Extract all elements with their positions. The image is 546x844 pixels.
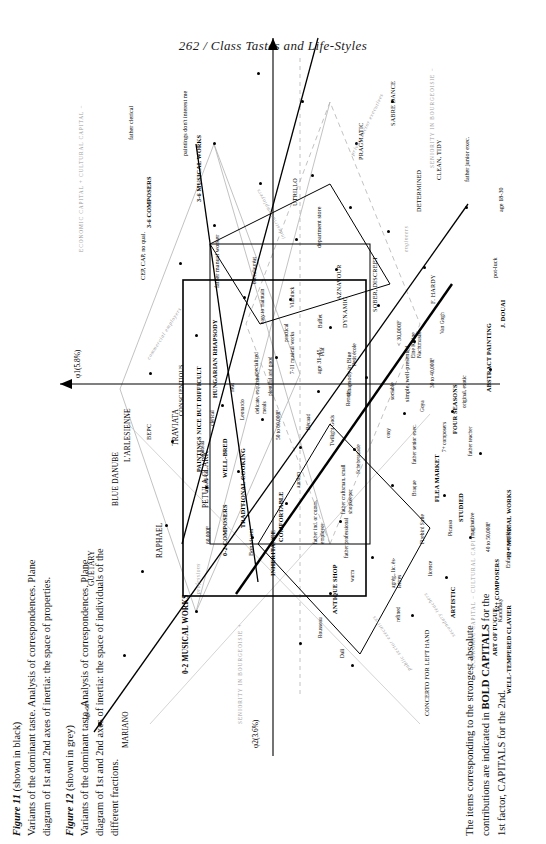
point-label-dynamic: DYNAMIC xyxy=(342,297,348,328)
fraction-engineers: engineers xyxy=(404,226,409,252)
point-label-twilight-gods: Twilight Gods xyxy=(330,415,335,446)
point-label-cep-cap-no-qual: CEP, CAP, no qual. xyxy=(140,232,146,280)
point-label-0-2-composers: 0-2 COMPOSERS xyxy=(222,504,228,556)
axis-label-phi2: φ2(3.6%) xyxy=(252,720,259,748)
point-label-conscientious: CONSCIENTIOUS xyxy=(178,364,184,416)
point-label-neat: neat xyxy=(230,383,235,392)
point-label-12-plus-musical-works: 12+ MUSICAL WORKS xyxy=(506,489,512,558)
figure-12-caption: Figure 12 (shown in grey) Variants of th… xyxy=(63,536,122,836)
point-label-0-2-musical-works: 0-2 MUSICAL WORKS xyxy=(182,594,189,674)
point-label-renoir: Renoir xyxy=(346,391,351,406)
point-label-7-11-musical-works: 7-11 musical works xyxy=(290,332,295,374)
point-label-braque: Braque xyxy=(412,480,417,496)
point-label-determined: DETERMINED xyxy=(416,170,422,212)
point-label-original-exotic: original, exotic xyxy=(462,375,467,408)
point-label-picasso: Picasso xyxy=(448,520,453,536)
point-label-cosy: cosy xyxy=(386,428,391,438)
point-label-bon-vivant: Bon vivant xyxy=(248,529,254,556)
figure-11-caption: Figure 11 (shown in black) Variants of t… xyxy=(10,536,54,836)
point-label-father-senior-exec: father senior exec. xyxy=(412,424,417,464)
point-label-licence: licence xyxy=(428,561,433,576)
point-label-blue-danube: BLUE DANUBE xyxy=(112,452,119,506)
point-label-age-46-60: age 46-60 xyxy=(204,471,209,492)
point-label-father-teacher: father teacher xyxy=(468,427,473,456)
point-label-sabre-dance: SABRE DANCE xyxy=(390,81,396,126)
point-label-four-seasons: FOUR SEASONS xyxy=(452,384,458,434)
point-label-50-60000f: 50 to 60,000F xyxy=(276,410,281,440)
point-label-warm: warm xyxy=(350,570,355,582)
point-label-goya: Goya xyxy=(420,400,425,412)
point-label-firebird-suite: Firebird Suite xyxy=(420,514,425,544)
point-label-clean-tidy: CLEAN, TIDY xyxy=(436,139,442,180)
point-label-clerical: clerical xyxy=(210,410,215,426)
point-label-under-30000f: < 30,000F xyxy=(396,321,402,347)
point-label-3-6-composers: 3-6 COMPOSERS xyxy=(146,176,152,228)
fraction-professions: professions xyxy=(196,563,201,594)
point-label-7-plus-composers: 7+ composers xyxy=(442,422,447,452)
axis-label-phi1: φ1(5.8%) xyxy=(74,350,81,378)
point-label-plentiful-and-good: plentiful and good xyxy=(268,356,273,396)
note-bold-capitals: BOLD CAPITALS xyxy=(480,624,491,709)
point-label-inheritance: INHERITANCE xyxy=(270,530,276,576)
point-label-60000f: 60,000F xyxy=(206,526,211,544)
point-label-baccalaureat: baccalauréat xyxy=(252,257,257,284)
point-label-traditional-cooking: TRADITIONAL COOKING xyxy=(240,448,246,528)
point-label-rousseau: Rousseau xyxy=(318,617,323,638)
point-label-buffet: Buffet xyxy=(318,314,323,328)
point-label-van-gogh: Van Gogh xyxy=(440,312,445,334)
point-label-aznavour: AZNAVOUR xyxy=(336,264,342,300)
point-label-30-40000f: 30 to 40,000F xyxy=(430,358,435,388)
point-label-bepc: BEPC xyxy=(146,424,152,440)
point-label-concerto-for-left-hand: CONCERTO FOR LEFT HAND xyxy=(424,630,430,716)
point-label-utrillo: UTRILLO xyxy=(292,178,298,206)
point-label-studied: STUDIED xyxy=(458,493,464,522)
point-label-age-18-30: age 18-30 xyxy=(498,187,504,212)
point-label-leonardo: Leonardo xyxy=(240,399,245,420)
point-label-easy-to-maintain: easy to maintain xyxy=(260,289,265,324)
figure-captions-block: Figure 11 (shown in black) Variants of t… xyxy=(10,536,131,836)
point-label-f-hardy: F. HARDY xyxy=(430,274,436,304)
point-label-sober-discreet: SOBER, DISCREET xyxy=(372,256,378,312)
point-label-father-clerical: father clerical xyxy=(128,106,134,140)
point-label-department-store: department store xyxy=(316,207,322,248)
point-label-hungarian-rhapsody: HUNGARIAN RHAPSODY xyxy=(212,319,218,398)
point-label-vlaminck: Vlaminck xyxy=(290,287,295,308)
point-label-eine-kleine-nachtmusik: Eine Kleine Nachtmusik xyxy=(410,316,423,358)
point-label-father-craftsman-shopkeeper: father craftsman, small shopkeeper xyxy=(340,462,354,514)
point-label-scheherazade: Scheherazade xyxy=(356,444,361,474)
point-label-agreg-licence-lettres: agrég., lic. ès-lettres xyxy=(390,554,403,588)
point-label-pot-luck: pot-luck xyxy=(492,257,498,278)
point-label-3-6-musical-works: 3-6 MUSICAL WORKS xyxy=(196,135,202,202)
point-label-father-manual-worker: father manual worker xyxy=(214,235,220,288)
point-label-antique-shop: ANTIQUE SHOP xyxy=(332,564,338,614)
pole-economic-plus-cultural-minus: ECONOMIC CAPITAL + CULTURAL CAPITAL − xyxy=(78,92,85,252)
point-label-becaud: Bécaud xyxy=(306,414,311,430)
figure-12-mode: (shown in grey) xyxy=(64,725,75,791)
point-label-delicate-exquisite-meals: delicate, exquisite meals xyxy=(254,372,268,414)
point-label-auction: auction xyxy=(296,472,301,488)
point-label-dali: Dali xyxy=(340,649,345,658)
point-label-father-junior-exec: father junior exec. xyxy=(464,137,470,182)
point-label-40-50000f: 40 to 50,000F xyxy=(486,522,491,552)
pole-seniority-plus: SENIORITY IN BOURGEOISIE + xyxy=(238,624,243,724)
point-label-piaf: Piaf xyxy=(320,347,325,356)
point-label-refined: refined xyxy=(396,607,401,622)
figure-12-text: Variants of the dominant taste. Analysis… xyxy=(79,548,120,836)
point-label-raphael: RAPHAEL xyxy=(156,523,163,558)
point-label-paintings-dont-interest-me: paintings don't interest me xyxy=(182,91,188,156)
point-label-abstract-painting: ABSTRACT PAINTING xyxy=(486,323,492,392)
point-label-arlesienne: L'ARLESIENNE xyxy=(124,408,131,462)
figure-11-text: Variants of the dominant taste. Analysis… xyxy=(26,560,52,836)
point-label-watteau: Watteau xyxy=(200,440,205,458)
point-label-well-bred: WELL-BRED xyxy=(222,438,228,478)
point-label-practical: practical xyxy=(284,323,289,342)
figure-12-number: Figure 12 xyxy=(64,794,75,836)
point-label-comfortable: COMFORTABLE xyxy=(278,491,284,542)
point-label-imaginative: imaginative xyxy=(470,513,475,538)
point-label-j-douai: J. DOUAI xyxy=(500,300,506,328)
point-label-father-professional: father professional xyxy=(344,518,349,558)
figure-11-number: Figure 11 xyxy=(11,794,22,836)
point-label-pragmatic: PRAGMATIC xyxy=(358,122,364,160)
figure-11-mode: (shown in black) xyxy=(11,722,22,792)
point-label-flea-market: FLEA MARKET xyxy=(434,454,440,502)
